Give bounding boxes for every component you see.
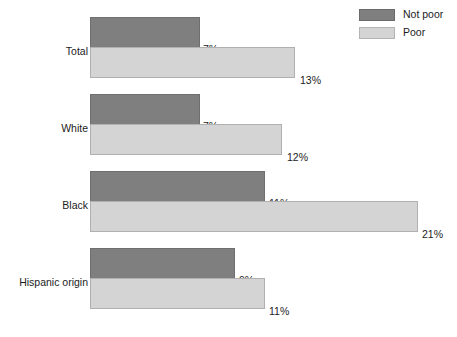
bar-poor[interactable] bbox=[90, 201, 418, 232]
bar-group: Hispanic origin9%11% bbox=[0, 248, 457, 310]
category-label: Hispanic origin bbox=[19, 276, 88, 288]
category-label: Total bbox=[66, 45, 88, 57]
bar-value-label: 12% bbox=[287, 151, 308, 163]
legend-swatch-poor bbox=[359, 27, 395, 39]
chart-legend: Not poorPoor bbox=[359, 8, 455, 44]
bar-poor[interactable] bbox=[90, 124, 282, 155]
bar-value-label: 11% bbox=[269, 305, 289, 317]
bar-group: Black11%21% bbox=[0, 171, 457, 233]
legend-label: Poor bbox=[403, 26, 425, 39]
category-label: White bbox=[61, 122, 88, 134]
bar-chart: Total7%13%White7%12%Black11%21%Hispanic … bbox=[0, 0, 457, 337]
legend-item-poor[interactable]: Poor bbox=[359, 26, 455, 41]
category-label: Black bbox=[62, 199, 88, 211]
legend-label: Not poor bbox=[403, 8, 443, 21]
bar-group: White7%12% bbox=[0, 94, 457, 156]
plot-area: Total7%13%White7%12%Black11%21%Hispanic … bbox=[0, 0, 457, 337]
bar-poor[interactable] bbox=[90, 278, 265, 309]
bar-notpoor[interactable] bbox=[90, 94, 200, 125]
bar-poor[interactable] bbox=[90, 47, 295, 78]
bar-notpoor[interactable] bbox=[90, 17, 200, 48]
bar-notpoor[interactable] bbox=[90, 248, 235, 279]
bar-value-label: 13% bbox=[300, 74, 321, 86]
bar-value-label: 21% bbox=[422, 228, 443, 240]
legend-item-not-poor[interactable]: Not poor bbox=[359, 8, 455, 23]
bar-notpoor[interactable] bbox=[90, 171, 265, 202]
legend-swatch-not-poor bbox=[359, 9, 395, 21]
